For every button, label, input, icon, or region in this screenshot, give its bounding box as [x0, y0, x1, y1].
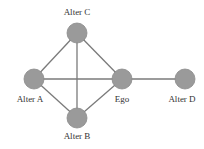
node-alterA — [24, 69, 44, 89]
labels-group: Alter CAlter AEgoAlter DAlter B — [17, 7, 196, 141]
node-alterD — [175, 69, 195, 89]
node-label-alterB: Alter B — [64, 131, 91, 141]
node-alterC — [67, 23, 87, 43]
nodes-group — [24, 23, 195, 128]
node-alterB — [67, 108, 87, 128]
network-canvas: Alter CAlter AEgoAlter DAlter B — [0, 0, 204, 149]
node-ego — [112, 69, 132, 89]
node-label-alterD: Alter D — [168, 94, 196, 104]
node-label-alterA: Alter A — [17, 94, 44, 104]
edges-group — [34, 33, 185, 118]
node-label-ego: Ego — [115, 94, 130, 104]
ego-network-diagram: Alter CAlter AEgoAlter DAlter B — [0, 0, 204, 149]
node-label-alterC: Alter C — [64, 7, 91, 17]
